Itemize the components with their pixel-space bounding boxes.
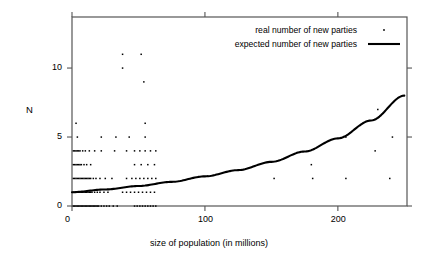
scatter-point (75, 123, 77, 125)
scatter-point (144, 123, 146, 125)
scatter-point (101, 205, 103, 207)
scatter-point (89, 178, 91, 180)
scatter-point (77, 164, 79, 166)
scatter-point (143, 178, 145, 180)
scatter-point (95, 205, 97, 207)
scatter-point (73, 205, 75, 207)
y-tick-label: 0 (57, 200, 62, 210)
scatter-point (139, 178, 141, 180)
scatter-point (74, 205, 76, 207)
scatter-point (117, 205, 119, 207)
legend-item-real: real number of new parties (207, 25, 357, 35)
scatter-point (122, 192, 124, 194)
scatter-point (142, 205, 144, 207)
scatter-point (114, 150, 116, 152)
scatter-point (103, 192, 105, 194)
scatter-point (79, 164, 81, 166)
scatter-point (75, 205, 77, 207)
scatter-point (155, 205, 157, 207)
scatter-point (154, 192, 156, 194)
scatter-point (99, 178, 101, 180)
scatter-point (99, 192, 101, 194)
scatter-point (97, 205, 99, 207)
scatter-point (142, 192, 144, 194)
scatter-point (144, 150, 146, 152)
scatter-point (90, 192, 92, 194)
scatter-point (95, 178, 97, 180)
legend-dot-icon (383, 29, 385, 31)
scatter-point (81, 192, 83, 194)
scatter-point (78, 164, 80, 166)
scatter-point (150, 150, 152, 152)
scatter-point (147, 178, 149, 180)
scatter-point (79, 205, 81, 207)
scatter-point (105, 178, 107, 180)
scatter-point (345, 136, 347, 138)
scatter-point (126, 178, 128, 180)
scatter-point (91, 205, 93, 207)
scatter-point (75, 192, 77, 194)
scatter-point (151, 178, 153, 180)
scatter-point (101, 136, 103, 138)
scatter-point (77, 150, 79, 152)
scatter-point (103, 205, 105, 207)
scatter-point (150, 192, 152, 194)
scatter-point (83, 164, 85, 166)
scatter-point (140, 54, 142, 56)
legend-marks (368, 29, 400, 44)
scatter-point (85, 150, 87, 152)
scatter-point (122, 54, 124, 56)
legend-item-expected: expected number of new parties (183, 39, 357, 49)
scatter-point (101, 150, 103, 152)
scatter-point (273, 178, 275, 180)
scatter-point (389, 178, 391, 180)
x-tick-label: 100 (198, 214, 213, 224)
scatter-point (78, 178, 80, 180)
scatter-point (82, 150, 84, 152)
scatter-point (85, 205, 87, 207)
scatter-point (81, 164, 83, 166)
chart-figure: N size of population (in millions) 01002… (0, 0, 431, 263)
scatter-point (147, 164, 149, 166)
scatter-point (74, 178, 76, 180)
scatter-point (377, 109, 379, 111)
scatter-point (98, 205, 100, 207)
scatter-point (392, 136, 394, 138)
scatter-point (75, 178, 77, 180)
scatter-point (74, 192, 76, 194)
scatter-point (312, 178, 314, 180)
scatter-point (94, 205, 96, 207)
scatter-point (128, 136, 130, 138)
scatter-point (134, 205, 136, 207)
scatter-point (115, 136, 117, 138)
y-axis-label: N (26, 104, 33, 115)
scatter-point (82, 178, 84, 180)
scatter-point (81, 205, 83, 207)
scatter-point (79, 150, 81, 152)
scatter-point (146, 192, 148, 194)
scatter-point (93, 205, 95, 207)
scatter-point (126, 192, 128, 194)
scatter-point (94, 192, 96, 194)
scatter-point (90, 164, 92, 166)
scatter-point (139, 205, 141, 207)
scatter-point (107, 192, 109, 194)
scatter-point (109, 205, 111, 207)
scatter-point (73, 150, 75, 152)
scatter-point (311, 164, 313, 166)
scatter-point (74, 150, 76, 152)
y-tick-label: 10 (52, 62, 62, 72)
scatter-point (77, 205, 79, 207)
scatter-point (87, 178, 89, 180)
scatter-point (126, 150, 128, 152)
scatter-points (73, 54, 394, 207)
scatter-point (122, 67, 124, 69)
scatter-point (86, 164, 88, 166)
scatter-point (73, 178, 75, 180)
scatter-point (86, 205, 88, 207)
x-axis-label: size of population (in millions) (150, 238, 268, 248)
scatter-point (155, 150, 157, 152)
scatter-point (83, 205, 85, 207)
scatter-point (83, 192, 85, 194)
scatter-point (90, 178, 92, 180)
